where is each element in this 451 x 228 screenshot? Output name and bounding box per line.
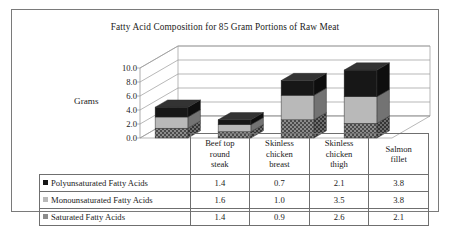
y-axis-title: Grams <box>74 96 99 106</box>
legend-swatch-icon <box>43 197 48 202</box>
category-label-line: Skinless <box>311 138 368 148</box>
data-value-cell: 2.6 <box>309 209 369 226</box>
y-axis-tick-label: 6.0 <box>103 92 137 101</box>
column-4 <box>344 63 389 138</box>
category-label-line: breast <box>251 159 308 169</box>
data-value-cell: 1.6 <box>190 192 250 209</box>
data-value-cell: 1.4 <box>190 175 250 192</box>
data-value-cell: 3.8 <box>369 192 429 209</box>
chart-figure: Fatty Acid Composition for 85 Gram Porti… <box>0 0 451 228</box>
legend-entry-label: Saturated Fatty Acids <box>51 212 125 222</box>
category-label-line: round <box>192 149 249 159</box>
table-row: Saturated Fatty Acids1.40.92.62.1 <box>40 209 429 226</box>
category-label-line: fillet <box>370 154 427 164</box>
category-label-line: thigh <box>311 159 368 169</box>
legend-header-spacer <box>40 134 191 175</box>
data-value-cell: 2.1 <box>369 209 429 226</box>
table-row: Monounsaturated Fatty Acids1.61.03.53.8 <box>40 192 429 209</box>
category-header-cell: Skinlesschickenbreast <box>250 134 310 175</box>
category-header-cell: Skinlesschickenthigh <box>309 134 369 175</box>
legend-swatch-icon <box>43 180 48 185</box>
data-value-cell: 0.7 <box>250 175 310 192</box>
category-label-line: steak <box>192 159 249 169</box>
y-axis-tick-label: 4.0 <box>103 106 137 115</box>
category-label-line: Skinless <box>251 138 308 148</box>
category-label-line: chicken <box>251 149 308 159</box>
category-header-cell: Beef toproundsteak <box>190 134 250 175</box>
category-label-line: chicken <box>311 149 368 159</box>
chart-frame: Fatty Acid Composition for 85 Gram Porti… <box>11 9 439 212</box>
data-value-cell: 1.0 <box>250 192 310 209</box>
legend-data-table: Beef toproundsteakSkinlesschickenbreastS… <box>39 133 429 226</box>
data-value-cell: 3.5 <box>309 192 369 209</box>
category-header-row: Beef toproundsteakSkinlesschickenbreastS… <box>40 134 429 175</box>
column-3 <box>281 73 326 138</box>
legend-entry[interactable]: Polyunsaturated Fatty Acids <box>40 175 191 192</box>
category-header-cell: Salmonfillet <box>369 134 429 175</box>
category-label-line: Salmon <box>370 144 427 154</box>
legend-entry[interactable]: Saturated Fatty Acids <box>40 209 191 226</box>
y-axis-tick-label: 8.0 <box>103 78 137 87</box>
data-value-cell: 2.1 <box>309 175 369 192</box>
table-row: Polyunsaturated Fatty Acids1.40.72.13.8 <box>40 175 429 192</box>
category-label-line: Beef top <box>192 138 249 148</box>
data-value-cell: 3.8 <box>369 175 429 192</box>
y-axis-tick-label: 10.0 <box>103 64 137 73</box>
legend-entry-label: Polyunsaturated Fatty Acids <box>51 178 148 188</box>
chart-title: Fatty Acid Composition for 85 Gram Porti… <box>12 22 438 32</box>
legend-swatch-icon <box>43 214 48 219</box>
data-value-cell: 1.4 <box>190 209 250 226</box>
data-value-cell: 0.9 <box>250 209 310 226</box>
legend-entry-label: Monounsaturated Fatty Acids <box>51 195 153 205</box>
y-axis-tick-label: 2.0 <box>103 120 137 129</box>
legend-entry[interactable]: Monounsaturated Fatty Acids <box>40 192 191 209</box>
